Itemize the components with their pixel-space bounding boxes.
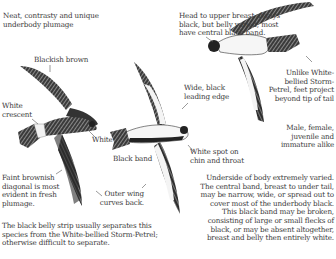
- note-white-crescent: White crescent: [2, 102, 32, 119]
- note-white-spot: White spot on chin and throat: [190, 148, 244, 165]
- note-feet-project: Unlike White- bellied Storm- Petrel, fee…: [252, 69, 334, 103]
- note-outer-wing: Outer wing curves back.: [96, 190, 144, 207]
- note-black-band: Black band: [113, 155, 152, 164]
- note-faint-diagonal: Faint brownish diagonal is most evident …: [2, 174, 59, 208]
- note-blackish-brown: Blackish brown: [34, 56, 88, 65]
- note-wide-black-edge: Wide, black leading edge: [184, 84, 229, 101]
- note-body-varied: Underside of body extremely varied. The …: [176, 174, 334, 243]
- field-guide-plate: Neat, contrasty and unique underbody plu…: [0, 0, 336, 259]
- note-white: White: [92, 136, 113, 145]
- note-underbody: Neat, contrasty and unique underbody plu…: [3, 12, 99, 29]
- note-head-breast: Head to upper breast always black, but b…: [179, 12, 280, 38]
- note-sexes-alike: Male, female, juvenile and immature alik…: [262, 124, 334, 150]
- note-separation: The black belly strip usually separates …: [2, 222, 158, 248]
